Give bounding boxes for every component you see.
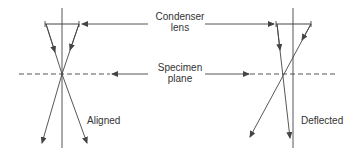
aligned-label: Aligned: [87, 115, 120, 126]
condenser-lens-label: Condenser lens: [148, 11, 212, 33]
deflected-system: [250, 8, 337, 148]
condenser-label-line2: lens: [148, 22, 212, 33]
deflected-label: Deflected: [301, 115, 343, 126]
specimen-label-line2: plane: [148, 73, 212, 84]
condenser-label-line1: Condenser: [148, 11, 212, 22]
specimen-plane-label: Specimen plane: [148, 62, 212, 84]
specimen-label-line1: Specimen: [148, 62, 212, 73]
condenser-alignment-diagram: Condenser lens Specimen plane Aligned De…: [0, 0, 361, 156]
aligned-system: [19, 8, 110, 148]
